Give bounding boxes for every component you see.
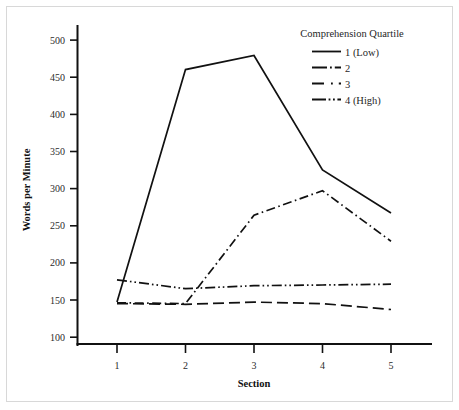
- axis-group: [78, 26, 432, 345]
- y-tick-label-100: 100: [50, 332, 65, 343]
- y-tick-label-450: 450: [50, 72, 65, 83]
- legend-item-label-2: 2: [345, 63, 350, 74]
- series-line-3: [117, 302, 391, 309]
- x-tick-label-5: 5: [389, 360, 394, 371]
- line-chart: 500 450 400 350 300 250 200 150 100 1 2 …: [0, 0, 459, 410]
- y-tick-label-400: 400: [50, 109, 65, 120]
- x-tick-marks: [117, 344, 391, 353]
- y-tick-label-200: 200: [50, 257, 65, 268]
- legend-item-3[interactable]: 3: [312, 79, 350, 90]
- y-tick-label-300: 300: [50, 183, 65, 194]
- y-tick-label-150: 150: [50, 295, 65, 306]
- legend-item-label-1: 1 (Low): [345, 47, 380, 59]
- x-tick-labels: 1 2 3 4 5: [115, 360, 394, 371]
- x-axis-title: Section: [238, 378, 271, 389]
- figure-container: 500 450 400 350 300 250 200 150 100 1 2 …: [0, 0, 459, 410]
- y-tick-marks: [70, 40, 78, 337]
- legend-title: Comprehension Quartile: [300, 28, 404, 39]
- x-tick-label-2: 2: [183, 360, 188, 371]
- series-line-2: [117, 191, 391, 304]
- y-tick-label-500: 500: [50, 35, 65, 46]
- legend-item-label-3: 3: [345, 79, 350, 90]
- x-tick-label-3: 3: [252, 360, 257, 371]
- series-line-4-high: [117, 280, 391, 289]
- y-axis-title: Words per Minute: [21, 148, 32, 231]
- series-line-1-low: [117, 56, 391, 303]
- x-tick-label-1: 1: [115, 360, 120, 371]
- legend: Comprehension Quartile 1 (Low) 2 3 4 (Hi…: [300, 28, 404, 107]
- y-tick-label-350: 350: [50, 146, 65, 157]
- legend-item-2[interactable]: 2: [312, 63, 350, 74]
- y-tick-labels: 500 450 400 350 300 250 200 150 100: [50, 35, 65, 343]
- legend-item-label-4: 4 (High): [345, 95, 381, 107]
- y-tick-label-250: 250: [50, 220, 65, 231]
- legend-item-1[interactable]: 1 (Low): [312, 47, 380, 59]
- x-tick-label-4: 4: [320, 360, 325, 371]
- legend-item-4[interactable]: 4 (High): [312, 95, 381, 107]
